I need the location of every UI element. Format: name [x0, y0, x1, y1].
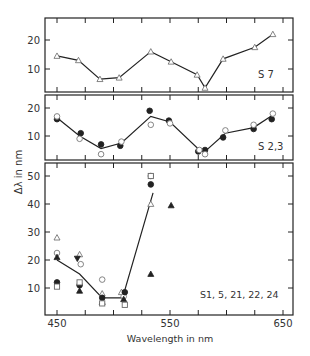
open-triangle-marker — [54, 235, 60, 240]
filled-triangle-marker — [77, 288, 83, 293]
ytick-middle-20: 20 — [27, 103, 40, 114]
ytick-bottom-20: 20 — [27, 255, 40, 266]
open-circle-marker — [270, 111, 276, 117]
filled-circle-marker — [220, 135, 226, 141]
open-triangle-marker — [168, 59, 174, 64]
open-circle-marker — [148, 122, 154, 128]
open-triangle-marker — [148, 201, 154, 206]
x-axis-label: Wavelength in nm — [127, 333, 213, 344]
xtick-550: 550 — [160, 318, 179, 329]
open-circle-marker — [78, 261, 84, 267]
y-axis-label: Δλ in nm — [13, 150, 24, 194]
filled-circle-marker — [99, 295, 105, 301]
ytick-middle-10: 10 — [27, 131, 40, 142]
ytick-top-20: 20 — [27, 35, 40, 46]
filled-circle-marker — [122, 289, 128, 295]
filled-triangle-marker — [148, 271, 154, 276]
series-line — [57, 115, 273, 151]
panel-frame-0 — [45, 18, 293, 92]
filled-circle-marker — [269, 116, 275, 122]
ytick-bottom-40: 40 — [27, 199, 40, 210]
open-circle-marker — [54, 114, 60, 120]
open-circle-marker — [223, 128, 229, 134]
open-square-marker — [148, 173, 153, 178]
filled-triangle-marker — [168, 202, 174, 207]
open-square-marker — [100, 301, 105, 306]
panel-label-top: S 7 — [258, 69, 274, 80]
ytick-bottom-50: 50 — [27, 171, 40, 182]
panel-label-bottom: S1, 5, 21, 22, 24 — [200, 289, 279, 300]
figure: 20 10 S 7 20 10 S 2,3 50 40 30 20 10 S1,… — [0, 0, 310, 356]
series-line — [57, 34, 273, 88]
open-circle-marker — [99, 277, 105, 283]
open-square-marker — [122, 302, 127, 307]
ytick-bottom-10: 10 — [27, 283, 40, 294]
xtick-650: 650 — [273, 318, 292, 329]
open-triangle-marker — [202, 85, 208, 90]
open-triangle-marker — [148, 49, 154, 54]
ytick-bottom-30: 30 — [27, 227, 40, 238]
open-triangle-marker — [54, 53, 60, 58]
open-circle-marker — [119, 139, 125, 145]
open-circle-marker — [98, 151, 104, 157]
open-triangle-marker — [270, 31, 276, 36]
panel-label-middle: S 2,3 — [258, 141, 283, 152]
xtick-450: 450 — [47, 318, 66, 329]
ytick-top-10: 10 — [27, 64, 40, 75]
filled-triangle-down-marker — [74, 256, 80, 261]
open-circle-marker — [167, 121, 173, 127]
open-circle-marker — [197, 147, 203, 153]
filled-circle-marker — [98, 142, 104, 148]
open-square-marker — [77, 280, 82, 285]
filled-circle-marker — [147, 108, 153, 114]
filled-circle-marker — [148, 182, 154, 188]
open-triangle-marker — [194, 72, 200, 77]
open-circle-marker — [77, 136, 83, 142]
open-square-marker — [54, 284, 59, 289]
filled-circle-marker — [78, 130, 84, 136]
open-circle-marker — [251, 122, 257, 128]
open-circle-marker — [202, 151, 208, 157]
series-line — [57, 193, 153, 298]
